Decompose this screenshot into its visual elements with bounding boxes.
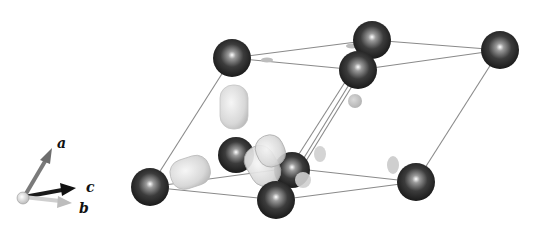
crystal-structure-figure: a c b [0, 0, 538, 231]
atom [257, 181, 295, 219]
atom [481, 31, 519, 69]
axis-b-arrowhead-icon [57, 196, 72, 208]
axis-b-arrow [24, 197, 60, 201]
axis-a-arrowhead-icon [40, 148, 52, 164]
atom [213, 39, 251, 77]
atom [131, 168, 169, 206]
axis-c-arrowhead-icon [60, 183, 76, 196]
atom [339, 51, 377, 89]
atom [397, 163, 435, 201]
axis-a-label: a [57, 135, 66, 151]
axis-triad: a c b [17, 135, 95, 216]
axis-a-arrow [24, 158, 47, 197]
axis-origin [17, 192, 29, 204]
axis-b-label: b [79, 200, 89, 216]
axis-c-label: c [86, 179, 95, 195]
